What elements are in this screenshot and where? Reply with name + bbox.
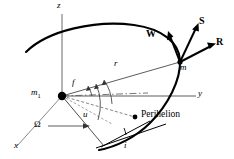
true-anomaly-label: f [72, 78, 75, 87]
central-mass-subscript: 1 [38, 92, 41, 99]
argument-of-latitude-arc [96, 84, 100, 120]
x-axis-label: x [14, 141, 18, 150]
central-mass-label: m1 [31, 88, 41, 99]
orbit-path [26, 24, 180, 150]
orbital-elements-diagram: z y x m1 m r f u Ω i Perihelion R S W [0, 0, 234, 159]
orbiting-mass-label: m [180, 63, 187, 72]
argument-of-latitude-label: u [83, 110, 88, 119]
vector-W-label: W [146, 29, 156, 39]
vector-R-label: R [216, 37, 223, 47]
node-line [62, 96, 104, 146]
z-axis-label: z [57, 1, 61, 10]
perihelion-dot [133, 115, 138, 120]
y-axis-label: y [198, 89, 202, 98]
dashed-perihelion-ray [62, 96, 135, 117]
inclination-label: i [124, 141, 127, 150]
ascending-node-label: Ω [34, 120, 41, 129]
angle-arcs [48, 80, 112, 129]
radius-vector [62, 62, 180, 96]
radius-line [62, 62, 180, 96]
rsw-vectors [167, 23, 216, 62]
radius-label: r [114, 59, 118, 68]
perihelion-label: Perihelion [141, 110, 180, 120]
vector-W-shaft [170, 36, 180, 62]
vector-S-label: S [199, 16, 205, 26]
central-mass-dot [58, 92, 66, 100]
vector-S-arrowhead [192, 23, 199, 32]
